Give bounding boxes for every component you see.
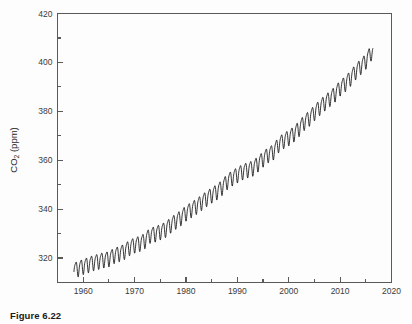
y-tick-label: 400 bbox=[38, 57, 52, 67]
y-axis-title-main: CO bbox=[8, 158, 19, 172]
x-tick-label: 1980 bbox=[177, 286, 196, 296]
x-tick-label: 1960 bbox=[74, 286, 93, 296]
svg-text:CO2 (ppm): CO2 (ppm) bbox=[8, 127, 20, 172]
figure-caption: Figure 6.22 bbox=[10, 310, 61, 321]
chart-canvas: 320340360380400420 196019701980199020002… bbox=[0, 0, 412, 300]
x-axis-major-ticks bbox=[83, 277, 391, 283]
figure-page: 320340360380400420 196019701980199020002… bbox=[0, 0, 412, 324]
y-tick-label: 420 bbox=[38, 9, 52, 19]
y-tick-label: 360 bbox=[38, 155, 52, 165]
x-tick-label: 2000 bbox=[279, 286, 298, 296]
x-tick-label: 1970 bbox=[125, 286, 144, 296]
x-tick-label: 2020 bbox=[382, 286, 401, 296]
y-axis-tick-labels: 320340360380400420 bbox=[38, 9, 52, 264]
x-axis-tick-labels: 1960197019801990200020102020 bbox=[74, 286, 401, 296]
x-tick-label: 1990 bbox=[228, 286, 247, 296]
y-tick-label: 340 bbox=[38, 204, 52, 214]
y-axis-title-units: (ppm) bbox=[8, 127, 19, 154]
co2-keeling-curve-figure: 320340360380400420 196019701980199020002… bbox=[0, 0, 412, 300]
y-tick-label: 380 bbox=[38, 106, 52, 116]
x-tick-label: 2010 bbox=[331, 286, 350, 296]
y-tick-label: 320 bbox=[38, 253, 52, 263]
co2-data-line bbox=[74, 49, 373, 277]
y-axis-title: CO2 (ppm) bbox=[8, 127, 20, 172]
plot-frame bbox=[58, 14, 392, 283]
